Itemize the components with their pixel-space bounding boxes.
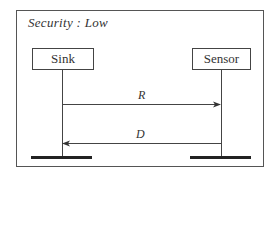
message-d-label: D: [136, 127, 145, 142]
message-r-label: R: [138, 88, 145, 103]
